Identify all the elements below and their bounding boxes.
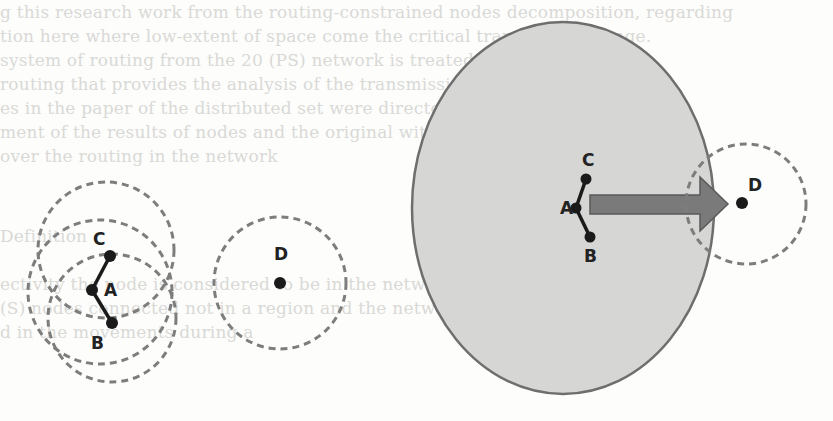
label-b-right: B — [584, 246, 597, 266]
node-c — [104, 250, 116, 262]
label-b: B — [91, 333, 104, 353]
node-d — [274, 277, 286, 289]
label-a-right: A — [560, 198, 574, 218]
label-c-right: C — [582, 150, 594, 170]
node-b — [106, 317, 118, 329]
node-c-right — [581, 174, 592, 185]
diagram-canvas: A C B D A C B D — [0, 0, 833, 421]
node-b-right — [585, 232, 596, 243]
node-d-right — [736, 197, 748, 209]
label-a: A — [104, 280, 118, 300]
node-a — [86, 284, 98, 296]
label-c: C — [93, 229, 105, 249]
label-d: D — [274, 244, 288, 264]
label-d-right: D — [748, 175, 762, 195]
diagram-figure: g this research work from the routing-co… — [0, 0, 833, 421]
